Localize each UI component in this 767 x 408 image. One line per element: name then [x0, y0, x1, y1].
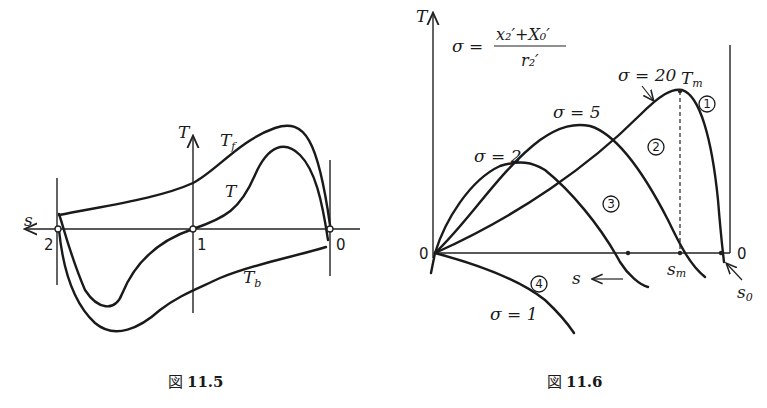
formula-numerator: x₂′+X₀′	[496, 25, 550, 44]
slip-direction-label: s	[572, 268, 581, 288]
point-s0	[327, 226, 333, 232]
formula-lhs: σ =	[452, 36, 483, 56]
tm-label: Tm	[681, 68, 703, 90]
svg-text:2: 2	[652, 140, 660, 154]
caption-figure-11-5: 図11.5	[168, 370, 224, 391]
t-axis-label-11-6: T	[416, 6, 429, 26]
sigma2-crossing-point	[626, 251, 630, 255]
figure-11-6: σ = x₂′+X₀′ r₂′ T 0 0 σ = 20 σ = 5 σ = 2…	[416, 6, 753, 333]
point-label-0: 0	[336, 236, 346, 254]
sm-label: sm	[667, 259, 686, 280]
circled-number-1: 1	[699, 96, 715, 112]
s0-label: s0	[737, 282, 753, 304]
right-origin-label: 0	[737, 245, 747, 263]
t-axis-label: T	[178, 122, 191, 142]
page-figures: T s 2 1 0 Tf T Tb	[0, 0, 767, 408]
label-sigma-20: σ = 20	[618, 65, 676, 85]
caption-figure-11-6: 図11.6	[547, 370, 603, 391]
svg-text:3: 3	[607, 197, 615, 211]
point-s2	[55, 226, 61, 232]
point-s1	[190, 226, 196, 232]
svg-text:1: 1	[703, 97, 711, 111]
s0-point	[719, 251, 723, 255]
circled-number-2: 2	[648, 139, 664, 155]
t-label: T	[225, 181, 238, 201]
svg-text:4: 4	[535, 277, 543, 291]
label-sigma-5: σ = 5	[553, 102, 600, 122]
label-sigma-2: σ = 2	[474, 146, 521, 166]
tm-point	[678, 89, 682, 93]
sm-point	[678, 251, 682, 255]
circled-number-4: 4	[531, 276, 547, 292]
circled-number-3: 3	[603, 196, 619, 212]
tf-curve	[59, 126, 330, 225]
curve-sigma-2	[435, 163, 648, 287]
tb-label: Tb	[243, 267, 261, 290]
figure-11-5: T s 2 1 0 Tf T Tb	[24, 122, 360, 331]
point-label-1: 1	[197, 236, 207, 254]
point-label-2: 2	[44, 236, 54, 254]
s-axis-label: s	[24, 210, 33, 230]
tf-label: Tf	[220, 130, 237, 153]
sigma20-pointer-arrow	[642, 86, 653, 100]
origin-label: 0	[419, 245, 429, 263]
label-sigma-1: σ = 1	[490, 304, 537, 324]
s0-pointer-arrow	[727, 264, 742, 280]
formula-denominator: r₂′	[521, 51, 539, 70]
